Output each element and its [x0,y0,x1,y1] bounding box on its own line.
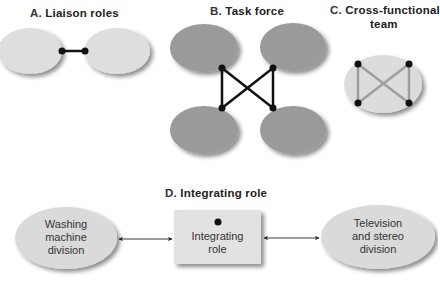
task-force-unit-tr [260,23,326,71]
panel-d-title: D. Integrating role [165,187,267,199]
panel-d-title-text: Integrating role [180,187,267,199]
label-line: Television [336,217,420,230]
panel-c-letter: C. [330,4,342,16]
task-force-node [219,65,226,72]
cross-functional-group [344,55,422,113]
panel-a-letter: A. [30,7,42,19]
task-force-unit-tl [170,24,238,72]
label-line: division [336,243,420,256]
integrating-role-dot [215,219,222,226]
integrating-role-label: Integrating role [174,230,261,256]
liaison-unit-right [84,28,150,74]
label-line: division [26,244,106,257]
panel-b-letter: B. [210,5,222,17]
task-force-links [222,68,273,108]
liaison-roles-group [0,28,150,74]
cross-functional-node [406,100,413,107]
panel-b-title-text: Task force [225,5,284,17]
cross-functional-node [355,61,362,68]
cross-functional-node [406,61,413,68]
task-force-unit-br [260,106,326,154]
task-force-unit-bl [170,106,238,154]
panel-c-title-line1: Cross-functional [345,4,440,16]
task-force-node [219,105,226,112]
panel-d-letter: D. [165,187,177,199]
label-line: Washing [26,218,106,231]
label-line: Integrating [174,230,261,243]
panel-a-title-text: Liaison roles [45,7,119,19]
liaison-node-left [59,48,66,55]
label-line: and stereo [336,230,420,243]
panel-b-title: B. Task force [210,5,284,17]
panel-a-title: A. Liaison roles [30,7,119,19]
task-force-node [270,65,277,72]
task-force-group [170,23,326,154]
panel-c-title-line2: team [370,18,398,30]
label-line: machine [26,231,106,244]
task-force-node [270,105,277,112]
cross-functional-node [355,100,362,107]
television-stereo-division-label: Television and stereo division [336,217,420,256]
panel-c-title: C. Cross-functional [330,4,440,16]
liaison-node-right [82,48,89,55]
washing-machine-division-label: Washing machine division [26,218,106,257]
liaison-unit-left [0,28,62,74]
label-line: role [174,243,261,256]
